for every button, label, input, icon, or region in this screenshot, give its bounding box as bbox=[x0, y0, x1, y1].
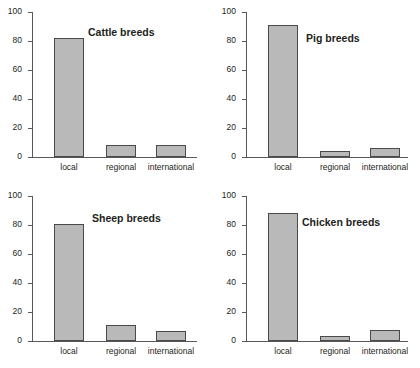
x-tick-label-regional: regional bbox=[106, 161, 136, 173]
bar-local bbox=[54, 38, 84, 157]
bar-local bbox=[268, 25, 298, 157]
chart-panel-chicken: Chicken breeds 0 20 40 60 80 100 local r… bbox=[210, 184, 420, 368]
x-tick-label-international: international bbox=[362, 345, 408, 357]
bar-international bbox=[370, 148, 400, 157]
plot-area: 0 20 40 60 80 100 local regional interna… bbox=[246, 12, 411, 157]
chart-panel-pig: Pig breeds 0 20 40 60 80 100 local regio… bbox=[210, 0, 420, 184]
y-tick-label: 100 bbox=[8, 5, 22, 18]
x-axis-line bbox=[32, 341, 197, 342]
x-tick-label-regional: regional bbox=[106, 345, 136, 357]
y-tick-label: 80 bbox=[227, 34, 236, 47]
y-tick-label: 20 bbox=[13, 121, 22, 134]
bar-regional bbox=[320, 336, 350, 341]
x-tick-label-local: local bbox=[60, 161, 77, 173]
y-tick-label: 60 bbox=[13, 247, 22, 260]
y-tick-label: 60 bbox=[227, 247, 236, 260]
y-tick-label: 0 bbox=[231, 150, 236, 163]
bar-group bbox=[32, 196, 197, 341]
bar-local bbox=[268, 213, 298, 341]
x-axis-line bbox=[246, 341, 408, 342]
y-tick-label: 40 bbox=[227, 92, 236, 105]
bar-regional bbox=[320, 151, 350, 157]
chart-panel-cattle: Cattle breeds 0 20 40 60 80 100 local re… bbox=[0, 0, 210, 184]
x-tick-label-regional: regional bbox=[320, 161, 350, 173]
y-tick-label: 20 bbox=[13, 305, 22, 318]
chart-panel-sheep: Sheep breeds 0 20 40 60 80 100 local reg… bbox=[0, 184, 210, 368]
plot-area: 0 20 40 60 80 100 local regional interna… bbox=[32, 12, 197, 157]
y-tick-label: 40 bbox=[13, 92, 22, 105]
y-tick-label: 100 bbox=[8, 189, 22, 202]
x-axis-line bbox=[32, 157, 197, 158]
y-tick-label: 80 bbox=[13, 218, 22, 231]
x-tick-label-international: international bbox=[148, 161, 194, 173]
x-tick-label-local: local bbox=[60, 345, 77, 357]
bar-group bbox=[246, 12, 411, 157]
y-tick: 0 bbox=[242, 157, 246, 158]
bar-group bbox=[246, 196, 411, 341]
y-tick-label: 40 bbox=[13, 276, 22, 289]
y-tick: 0 bbox=[242, 341, 246, 342]
bar-international bbox=[370, 330, 400, 341]
y-tick-label: 0 bbox=[17, 334, 22, 347]
y-tick-label: 80 bbox=[227, 218, 236, 231]
x-tick-label-local: local bbox=[274, 345, 291, 357]
bar-local bbox=[54, 224, 84, 341]
y-tick-label: 100 bbox=[222, 189, 236, 202]
plot-area: 0 20 40 60 80 100 local regional interna… bbox=[246, 196, 411, 341]
y-tick-label: 60 bbox=[227, 63, 236, 76]
bar-international bbox=[156, 145, 186, 157]
y-tick: 0 bbox=[28, 341, 32, 342]
bar-regional bbox=[106, 325, 136, 341]
y-tick-label: 20 bbox=[227, 305, 236, 318]
x-tick-label-local: local bbox=[274, 161, 291, 173]
bar-regional bbox=[106, 145, 136, 157]
y-tick-label: 0 bbox=[17, 150, 22, 163]
x-tick-label-international: international bbox=[148, 345, 194, 357]
y-tick-label: 0 bbox=[231, 334, 236, 347]
y-tick: 0 bbox=[28, 157, 32, 158]
y-tick-label: 100 bbox=[222, 5, 236, 18]
bar-group bbox=[32, 12, 197, 157]
y-tick-label: 80 bbox=[13, 34, 22, 47]
y-tick-label: 60 bbox=[13, 63, 22, 76]
plot-area: 0 20 40 60 80 100 local regional interna… bbox=[32, 196, 197, 341]
y-tick-label: 40 bbox=[227, 276, 236, 289]
x-axis-line bbox=[246, 157, 408, 158]
y-tick-label: 20 bbox=[227, 121, 236, 134]
x-tick-label-regional: regional bbox=[320, 345, 350, 357]
x-tick-label-international: international bbox=[362, 161, 408, 173]
bar-chart-figure: Cattle breeds 0 20 40 60 80 100 local re… bbox=[0, 0, 420, 368]
bar-international bbox=[156, 331, 186, 341]
